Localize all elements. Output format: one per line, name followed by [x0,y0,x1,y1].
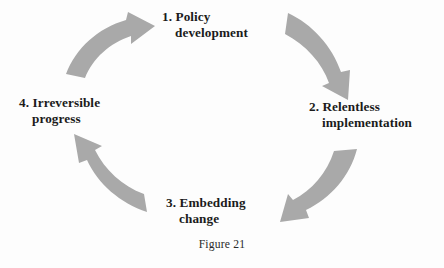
arrow-to-stage-4 [74,134,147,212]
stage-2-line-2: implementation [309,115,412,131]
stage-label-embedding-change: 3. Embedding change [166,195,246,226]
arrow-to-stage-3 [280,149,357,222]
stage-label-policy-development: 1. Policy development [162,9,248,40]
stage-4-line-1: 4. Irreversible [19,95,100,110]
cycle-diagram-figure: 1. Policy development 2. Relentless impl… [0,0,444,268]
stage-1-line-1: 1. Policy [162,9,211,24]
arrow-to-stage-3-shape [280,149,357,222]
stage-3-line-1: 3. Embedding [166,195,246,210]
stage-label-irreversible-progress: 4. Irreversible progress [19,95,100,126]
stage-1-line-2: development [162,25,248,41]
arrow-to-stage-1-shape [66,12,155,78]
stage-2-line-1: 2. Relentless [309,99,380,114]
stage-label-relentless-implementation: 2. Relentless implementation [309,99,412,130]
arrow-to-stage-4-shape [74,134,147,212]
arrow-to-stage-2-shape [285,13,350,100]
figure-caption: Figure 21 [0,238,444,251]
arrow-to-stage-2 [285,13,350,100]
cycle-arrow-group [0,0,444,268]
stage-3-line-2: change [166,211,246,227]
arrow-to-stage-1 [66,12,155,78]
stage-4-line-2: progress [19,111,100,127]
